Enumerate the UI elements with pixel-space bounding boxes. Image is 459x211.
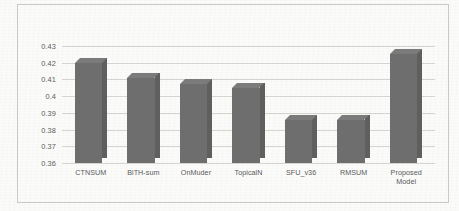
bar	[285, 115, 312, 163]
bar-front-face	[232, 88, 259, 163]
x-axis-category-label: Proposed Model	[373, 169, 440, 186]
bar-chart: 0.430.420.410.40.390.380.370.36CTNSUMBiT…	[0, 0, 459, 211]
y-axis-tick-label: 0.38	[41, 125, 56, 134]
y-axis-tick-label: 0.36	[41, 159, 56, 168]
gridline	[62, 79, 435, 80]
bar-front-face	[337, 120, 364, 163]
bar-side-face	[260, 83, 265, 158]
y-axis-tick-label: 0.41	[41, 75, 56, 84]
y-axis-tick-label: 0.37	[41, 142, 56, 151]
bar-front-face	[390, 54, 417, 163]
y-axis-tick-label: 0.39	[41, 108, 56, 117]
bar	[337, 115, 364, 163]
y-axis-tick-label: 0.43	[41, 42, 56, 51]
bar-front-face	[180, 84, 207, 163]
bar	[232, 83, 259, 163]
bar	[180, 79, 207, 163]
bar-side-face	[207, 79, 212, 158]
bar-side-face	[102, 58, 107, 158]
y-axis-tick-label: 0.4	[45, 92, 56, 101]
bar-front-face	[127, 78, 154, 163]
gridline	[62, 46, 435, 47]
y-axis-tick-label: 0.42	[41, 58, 56, 67]
bar-side-face	[365, 115, 370, 158]
bar-side-face	[312, 115, 317, 158]
bar-front-face	[285, 120, 312, 163]
bar	[75, 58, 102, 163]
scanned-figure-page: 0.430.420.410.40.390.380.370.36CTNSUMBiT…	[0, 0, 459, 211]
gridline	[62, 163, 435, 164]
bar-side-face	[155, 73, 160, 158]
bar-side-face	[417, 49, 422, 158]
gridline	[62, 63, 435, 64]
bar	[127, 73, 154, 163]
bar	[390, 49, 417, 163]
bar-front-face	[75, 63, 102, 163]
